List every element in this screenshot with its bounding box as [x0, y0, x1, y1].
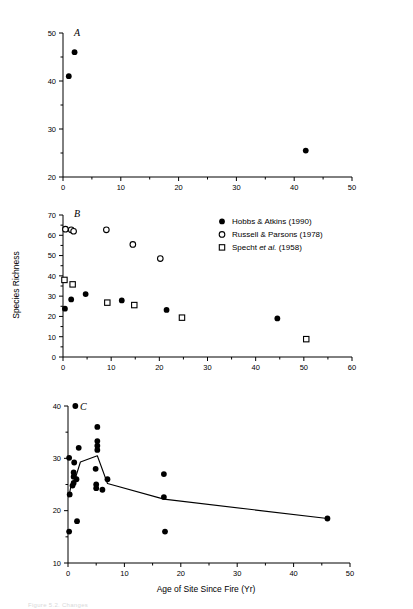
data-point-filled-circle [76, 445, 82, 451]
x-tick-label: 20 [177, 569, 185, 578]
x-tick-label: 30 [232, 183, 240, 192]
y-tick-label: 30 [53, 454, 61, 463]
data-point-filled-circle [105, 476, 111, 482]
data-point-open-circle [71, 228, 77, 234]
data-point-filled-circle [164, 307, 170, 313]
data-point-filled-circle [161, 471, 167, 477]
legend-marker-filled-circle [219, 219, 225, 225]
panel-a-tick-labels: 0102030405020304050 [48, 29, 357, 192]
panel-b-label: B [74, 208, 80, 219]
data-point-filled-circle [74, 518, 80, 524]
panel-c-axes [64, 406, 350, 567]
data-point-filled-circle [72, 403, 78, 409]
data-point-filled-circle [70, 483, 76, 489]
data-point-open-square [70, 282, 75, 287]
panel-c-trend-line [69, 456, 328, 519]
legend-label: Russell & Parsons (1978) [232, 230, 323, 239]
x-tick-label: 60 [348, 363, 356, 372]
figure-caption-partial: Figure 5.2. Changes [28, 602, 88, 608]
x-tick-label: 20 [174, 183, 182, 192]
species-richness-figure: 0102030405020304050 A 010203040506001020… [0, 0, 413, 609]
data-point-filled-circle [303, 148, 309, 154]
data-point-filled-circle [100, 487, 106, 493]
x-tick-label: 0 [61, 363, 65, 372]
data-point-filled-circle [93, 466, 99, 472]
data-point-open-square [62, 277, 67, 282]
data-point-filled-circle [325, 516, 331, 522]
panel-a-data-points [66, 49, 309, 153]
panel-c-data-points [66, 403, 330, 534]
data-point-open-circle [157, 256, 163, 262]
data-point-filled-circle [71, 460, 77, 466]
panel-a-label: A [73, 27, 81, 38]
data-point-filled-circle [93, 485, 99, 491]
y-tick-label: 0 [52, 353, 56, 362]
legend-label: Hobbs & Atkins (1990) [232, 217, 312, 226]
y-tick-label: 20 [48, 312, 56, 321]
data-point-open-circle [63, 226, 69, 232]
data-point-filled-circle [62, 306, 68, 312]
x-tick-label: 0 [66, 569, 70, 578]
x-tick-label: 10 [120, 569, 128, 578]
panel-a-axes [59, 33, 352, 181]
legend-marker-open-circle [219, 232, 225, 238]
y-tick-label: 20 [53, 506, 61, 515]
data-point-open-square [132, 302, 137, 307]
x-tick-label: 10 [107, 363, 115, 372]
x-tick-label: 20 [155, 363, 163, 372]
y-tick-label: 20 [48, 173, 56, 182]
legend: Hobbs & Atkins (1990)Russell & Parsons (… [219, 217, 323, 252]
x-tick-label: 50 [346, 569, 354, 578]
data-point-open-circle [130, 242, 136, 248]
data-point-filled-circle [274, 316, 280, 322]
figure-container: 0102030405020304050 A 010203040506001020… [0, 0, 413, 609]
data-point-filled-circle [83, 291, 89, 297]
y-tick-label: 60 [48, 231, 56, 240]
data-point-open-circle [104, 227, 110, 233]
panel-c-label: C [80, 401, 87, 412]
trend-line-path [69, 456, 328, 519]
data-point-filled-circle [161, 494, 167, 500]
data-point-filled-circle [72, 49, 78, 55]
y-tick-label: 50 [48, 251, 56, 260]
legend-label: Specht et al. (1958) [232, 243, 302, 252]
panel-c: 0102030405010203040 C [53, 401, 355, 578]
data-point-filled-circle [119, 298, 125, 304]
y-tick-label: 10 [48, 333, 56, 342]
legend-marker-open-square [219, 245, 224, 250]
x-tick-label: 50 [300, 363, 308, 372]
y-tick-label: 40 [48, 272, 56, 281]
panel-a: 0102030405020304050 A [48, 27, 357, 192]
x-tick-label: 40 [290, 183, 298, 192]
x-tick-label: 40 [251, 363, 259, 372]
data-point-filled-circle [67, 492, 73, 498]
y-tick-label: 70 [48, 211, 56, 220]
panel-b: 0102030405060010203040506070 B Hobbs & A… [48, 208, 357, 372]
data-point-open-square [304, 336, 309, 341]
x-tick-label: 10 [117, 183, 125, 192]
data-point-filled-circle [66, 73, 72, 79]
data-point-open-square [179, 315, 184, 320]
y-tick-label: 30 [48, 292, 56, 301]
y-tick-label: 50 [48, 29, 56, 38]
y-tick-label: 40 [53, 402, 61, 411]
x-tick-label: 0 [61, 183, 65, 192]
data-point-open-square [105, 300, 110, 305]
y-tick-label: 40 [48, 77, 56, 86]
data-point-filled-circle [66, 455, 72, 461]
x-tick-label: 30 [233, 569, 241, 578]
data-point-filled-circle [66, 529, 72, 535]
x-tick-label: 30 [203, 363, 211, 372]
data-point-filled-circle [68, 296, 74, 302]
data-point-filled-circle [94, 424, 100, 430]
x-axis-label: Age of Site Since Fire (Yr) [157, 584, 256, 594]
y-tick-label: 10 [53, 559, 61, 568]
y-tick-label: 30 [48, 125, 56, 134]
x-tick-label: 50 [348, 183, 356, 192]
data-point-filled-circle [94, 447, 100, 453]
x-tick-label: 40 [289, 569, 297, 578]
y-axis-label: Species Richness [11, 251, 21, 319]
data-point-filled-circle [162, 529, 168, 535]
